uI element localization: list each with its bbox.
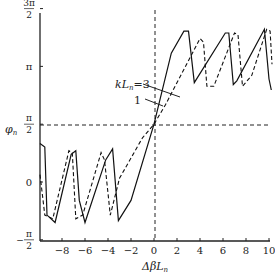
series-kl1-dashed <box>40 29 272 219</box>
y-tick-label-numerator: π <box>26 229 32 239</box>
y-axis-ticks: π2−0π2π3π2 <box>16 0 43 251</box>
k3-annotation: kLn=3 <box>115 78 150 92</box>
y-tick-label-denominator: 2 <box>26 241 32 251</box>
y-tick-label-numerator: 3π <box>23 0 35 8</box>
y-tick-label-numerator: π <box>26 113 32 123</box>
x-tick-label: −8 <box>55 245 70 256</box>
y-axis-label: φn <box>5 123 18 137</box>
x-tick-label: 2 <box>174 245 180 256</box>
y-tick-label-denominator: 2 <box>26 10 32 20</box>
x-tick-label: −2 <box>124 245 139 256</box>
x-tick-label: 8 <box>243 245 249 256</box>
y-tick-label: π <box>26 61 33 72</box>
x-axis-label: ΔβLn <box>141 260 169 274</box>
x-tick-label: −6 <box>78 245 93 256</box>
x-tick-label: −4 <box>101 245 116 256</box>
x-tick-label: 10 <box>263 245 275 256</box>
x-tick-label: 4 <box>197 245 203 256</box>
y-tick-label: 0 <box>26 177 32 188</box>
k1-annotation: 1 <box>134 94 141 107</box>
y-tick-label-denominator: 2 <box>26 125 32 135</box>
reference-lines <box>40 10 270 241</box>
phase-chart: π2−0π2π3π2 −8−6−4−20246810 kLn=3 1 ΔβLn … <box>0 0 275 275</box>
y-tick-label-sign: − <box>16 235 24 245</box>
x-tick-label: 0 <box>151 245 157 256</box>
x-tick-label: 6 <box>220 245 226 256</box>
